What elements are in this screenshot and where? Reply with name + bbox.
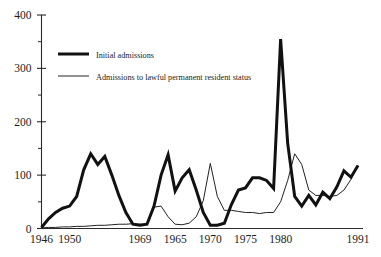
y-tick-label: 400 [14,9,32,21]
x-tick-label: 1970 [199,233,222,245]
x-tick-label: 1980 [269,233,292,245]
legend-label-initial-admissions: Initial admissions [96,51,154,60]
x-tick-label: 1991 [347,233,370,245]
x-tick-label: 1969 [128,233,151,245]
x-tick-label: 1965 [164,233,187,245]
x-tick-label: 1950 [58,233,81,245]
y-tick-label: 300 [14,62,32,74]
legend-label-lawful-permanent-resident: Admissions to lawful permanent resident … [96,73,251,82]
y-tick-label: 200 [14,116,32,128]
x-tick-label: 1975 [234,233,257,245]
x-tick-label: 1946 [30,233,53,245]
line-chart: 0100200300400 19461950196919651970197519… [0,0,381,257]
chart-container: 0100200300400 19461950196919651970197519… [0,0,381,257]
chart-background [0,0,381,257]
y-tick-label: 100 [14,169,32,181]
